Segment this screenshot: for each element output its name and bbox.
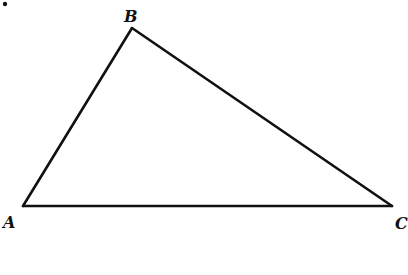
corner-dot <box>3 2 7 6</box>
side-ab <box>23 28 132 206</box>
side-bc <box>132 28 392 206</box>
vertex-label-a: A <box>3 215 15 231</box>
vertex-label-c: C <box>395 216 408 232</box>
vertex-label-b: B <box>124 9 138 25</box>
